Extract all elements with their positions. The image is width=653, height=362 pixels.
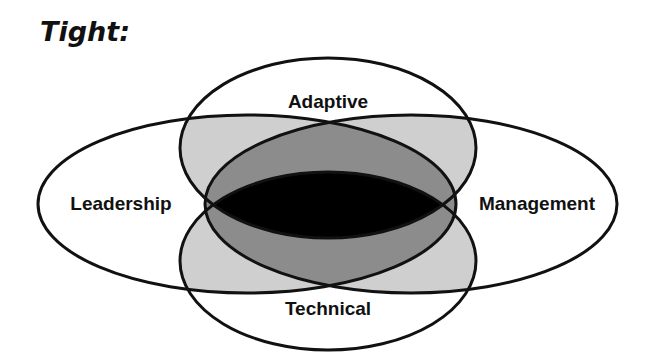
label-technical: Technical [285, 298, 371, 319]
label-adaptive: Adaptive [288, 91, 368, 112]
label-leadership: Leadership [70, 193, 171, 214]
label-management: Management [479, 193, 596, 214]
venn-diagram: Adaptive Leadership Management Technical [0, 0, 653, 362]
